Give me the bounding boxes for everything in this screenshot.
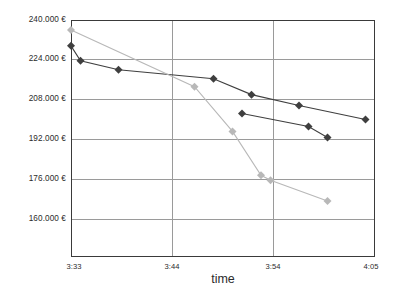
data-point-marker [257, 171, 265, 179]
data-point-marker [115, 66, 123, 74]
series-2 [238, 110, 332, 142]
series-line [242, 114, 328, 138]
series-3 [67, 26, 332, 205]
data-point-marker [77, 57, 85, 65]
data-point-marker [67, 42, 75, 50]
data-point-marker [210, 75, 218, 83]
data-point-marker [324, 197, 332, 205]
data-point-marker [324, 133, 332, 141]
x-tick-label: 3:33 [67, 262, 82, 271]
series-line [71, 46, 366, 120]
data-point-marker [238, 110, 246, 118]
data-point-marker [305, 122, 313, 130]
x-axis-title: time [71, 272, 375, 286]
data-series-layer [0, 0, 399, 299]
data-point-marker [248, 91, 256, 99]
series-1 [67, 42, 370, 124]
data-point-marker [267, 176, 275, 184]
x-tick-label: 3:54 [266, 262, 281, 271]
data-point-marker [67, 26, 75, 34]
series-line [71, 30, 328, 201]
data-point-marker [362, 116, 370, 124]
data-point-marker [295, 102, 303, 110]
chart-container: 240.000 € 224.000 € 208.000 € 192.000 € … [0, 0, 399, 299]
x-tick-label: 4:05 [364, 262, 379, 271]
x-tick-label: 3:44 [165, 262, 180, 271]
